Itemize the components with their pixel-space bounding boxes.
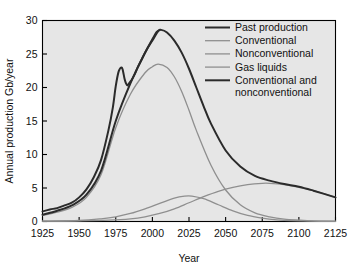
y-tick-label: 0 xyxy=(32,215,38,227)
x-axis-title: Year xyxy=(178,252,200,264)
x-tick-label: 2075 xyxy=(251,227,275,239)
legend-label-3: Gas liquids xyxy=(235,61,287,73)
y-tick-label: 25 xyxy=(26,48,38,60)
x-tick-label: 1950 xyxy=(67,227,91,239)
production-line-chart: 051015202530 192519501975200020252050207… xyxy=(0,0,352,270)
y-tick-label: 30 xyxy=(26,14,38,26)
legend-label-0: Past production xyxy=(235,21,308,33)
x-tick-label: 2025 xyxy=(177,227,201,239)
x-tick-label: 2125 xyxy=(324,227,348,239)
x-tick-label: 2100 xyxy=(287,227,311,239)
y-tick-label: 10 xyxy=(26,148,38,160)
legend-label-1: Conventional xyxy=(235,34,296,46)
x-tick-label: 2050 xyxy=(214,227,238,239)
y-tick-label: 5 xyxy=(32,182,38,194)
x-tick-label: 1975 xyxy=(104,227,128,239)
legend-label-4: Conventional and xyxy=(235,74,317,86)
x-tick-label: 1925 xyxy=(31,227,55,239)
y-tick-label: 15 xyxy=(26,115,38,127)
legend-label-4-line2: nonconventional xyxy=(235,86,311,98)
y-axis-title: Annual production Gb/year xyxy=(3,58,15,183)
legend-label-2: Nonconventional xyxy=(235,47,313,59)
y-tick-label: 20 xyxy=(26,81,38,93)
chart-figure: 051015202530 192519501975200020252050207… xyxy=(0,0,352,270)
x-tick-label: 2000 xyxy=(141,227,165,239)
